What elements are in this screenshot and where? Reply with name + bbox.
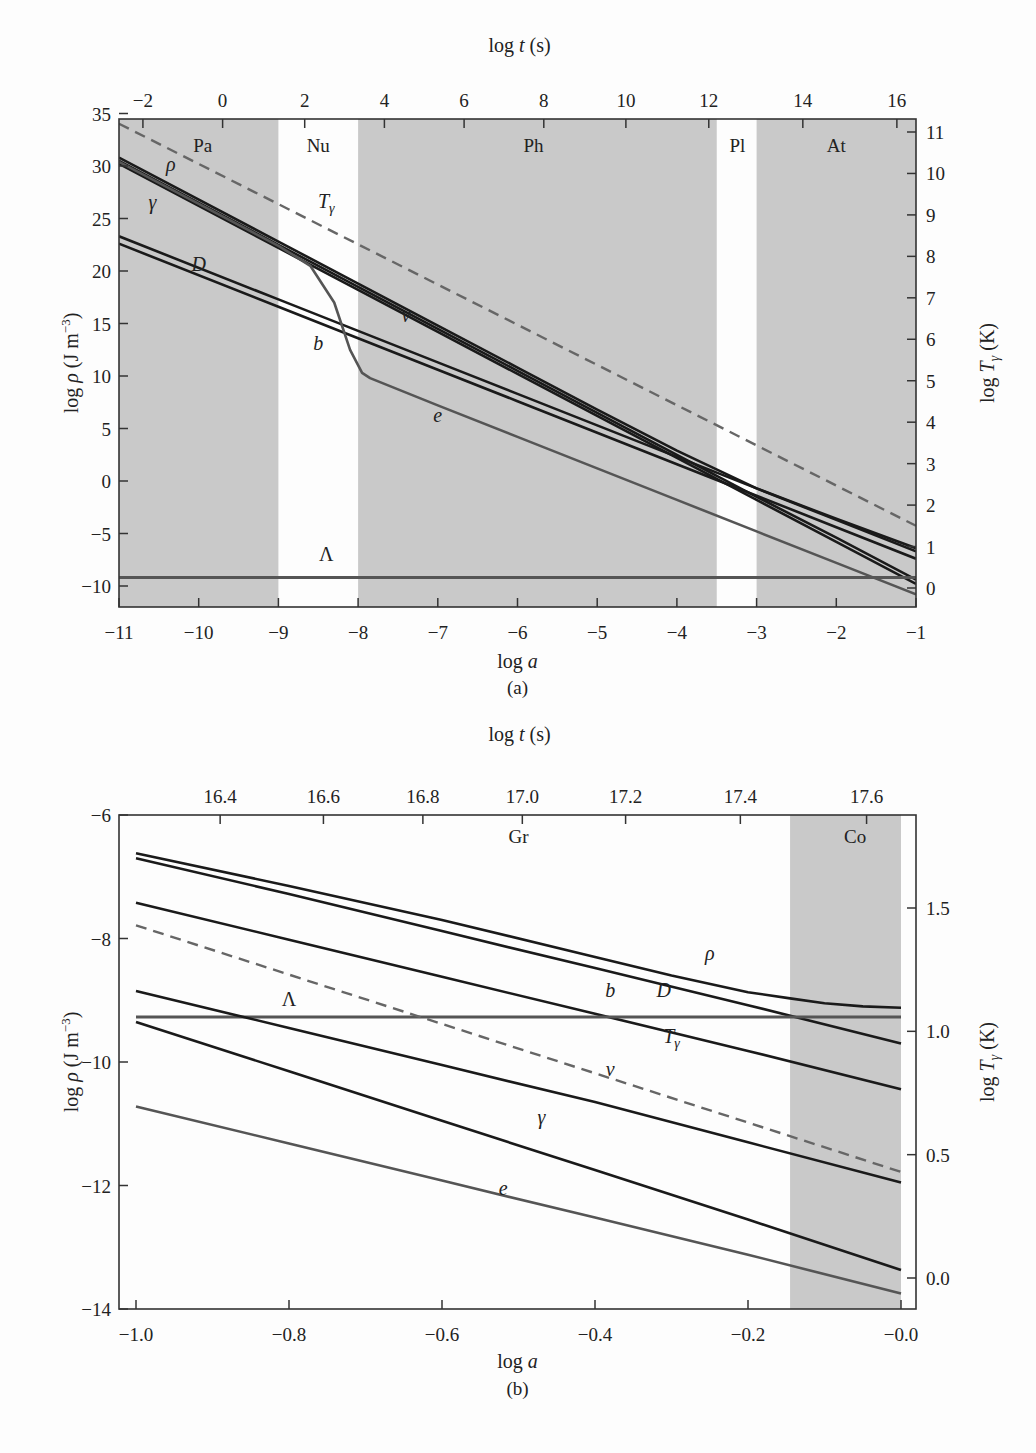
top-tick-label: 16 [887, 90, 906, 111]
era-band-co [790, 815, 901, 1309]
y-tick-label: 0 [102, 471, 112, 492]
x-axis-title: log a [497, 1350, 538, 1373]
era-label: Ph [523, 135, 544, 156]
top-tick-label: 16.8 [406, 786, 439, 807]
y-axis-title: log ρ (J m−3) [58, 313, 83, 414]
curve-b [136, 903, 901, 1089]
era-bands [119, 119, 916, 607]
top-tick-label: 12 [699, 90, 718, 111]
x-tick-label: −6 [507, 622, 527, 643]
top-tick-label: 16.6 [307, 786, 340, 807]
right-axis-title: log Tγ (K) [976, 1022, 1002, 1102]
era-label: Co [844, 826, 866, 847]
right-tick-label: 6 [926, 329, 936, 350]
y-tick-label: 30 [92, 156, 111, 177]
right-tick-label: 7 [926, 288, 936, 309]
right-tick-label: 1.0 [926, 1021, 950, 1042]
right-tick-label: 11 [926, 122, 944, 143]
top-tick-label: 16.4 [204, 786, 238, 807]
right-tick-label: 1.5 [926, 898, 950, 919]
right-axis: 1.51.00.50.0 [907, 898, 950, 1289]
right-tick-label: 2 [926, 495, 936, 516]
era-label: Pl [730, 135, 746, 156]
panel-caption: (b) [506, 1378, 528, 1400]
curve-label: ν [401, 304, 410, 326]
curve-ν [136, 991, 901, 1182]
top-tick-label: 17.4 [724, 786, 758, 807]
y-tick-label: −5 [91, 524, 111, 545]
y-tick-label: −10 [81, 1052, 111, 1073]
top-tick-label: 17.2 [609, 786, 642, 807]
y-tick-label: 20 [92, 261, 111, 282]
top-tick-label: 0 [218, 90, 228, 111]
top-tick-label: −2 [133, 90, 153, 111]
x-tick-label: −0.4 [578, 1324, 613, 1345]
curve-label: D [190, 253, 206, 275]
x-tick-label: −0.6 [425, 1324, 459, 1345]
x-tick-label: −1 [906, 622, 926, 643]
y-tick-label: −8 [91, 929, 111, 950]
top-tick-label: 2 [300, 90, 310, 111]
era-bands [790, 815, 901, 1309]
x-axis-title: log a [497, 650, 538, 673]
curve-label: Tγ [663, 1025, 680, 1051]
era-label: Gr [508, 826, 529, 847]
right-tick-label: 10 [926, 163, 945, 184]
right-tick-label: 5 [926, 371, 936, 392]
y-tick-label: 10 [92, 366, 111, 387]
right-axis-title: log Tγ (K) [976, 323, 1002, 403]
right-tick-label: 3 [926, 454, 936, 475]
top-axis-title: log t (s) [488, 34, 550, 57]
top-axis: 16.416.616.817.017.217.417.6 [204, 786, 884, 824]
figure: −11−10−9−8−7−6−5−4−3−2−1log a(a)−2024681… [0, 0, 1036, 1453]
era-band-at [757, 119, 916, 607]
right-tick-label: 4 [926, 412, 936, 433]
curve-label: Λ [282, 988, 297, 1010]
era-band-ph [358, 119, 717, 607]
x-tick-label: −9 [268, 622, 288, 643]
right-tick-label: 0.0 [926, 1268, 950, 1289]
panel-caption: (a) [507, 677, 528, 699]
y-tick-label: −10 [81, 576, 111, 597]
curve-label: Tγ [318, 190, 335, 216]
right-tick-label: 9 [926, 205, 936, 226]
era-label: Nu [307, 135, 331, 156]
curve-label: Λ [319, 543, 334, 565]
y-tick-label: 5 [102, 419, 112, 440]
top-tick-label: 17.6 [850, 786, 883, 807]
right-tick-label: 8 [926, 246, 936, 267]
y-tick-label: −12 [81, 1176, 111, 1197]
x-tick-label: −2 [826, 622, 846, 643]
y-tick-label: 15 [92, 314, 111, 335]
right-tick-label: 0 [926, 578, 936, 599]
right-tick-label: 0.5 [926, 1145, 950, 1166]
panel-b-chart: −1.0−0.8−0.6−0.4−0.2−0.0log a(b)16.416.6… [58, 723, 1002, 1400]
top-tick-label: 4 [380, 90, 390, 111]
x-tick-label: −10 [184, 622, 214, 643]
panel-a-chart: −11−10−9−8−7−6−5−4−3−2−1log a(a)−2024681… [58, 34, 1002, 699]
era-label: At [827, 135, 847, 156]
curve-label: b [605, 979, 615, 1001]
curve-label: D [656, 979, 672, 1001]
curve-label: e [499, 1177, 508, 1199]
x-tick-label: −3 [746, 622, 766, 643]
curve-γ [136, 1022, 901, 1270]
y-tick-label: 25 [92, 209, 111, 230]
x-tick-label: −0.0 [884, 1324, 918, 1345]
x-tick-label: −0.8 [272, 1324, 306, 1345]
top-tick-label: 17.0 [506, 786, 539, 807]
x-tick-label: −4 [667, 622, 688, 643]
curve-e [136, 1107, 901, 1294]
x-tick-label: −7 [428, 622, 448, 643]
y-tick-label: 35 [92, 104, 111, 125]
x-tick-label: −5 [587, 622, 607, 643]
x-tick-label: −1.0 [119, 1324, 153, 1345]
curve-label: e [433, 404, 442, 426]
curve-label: γ [538, 1106, 547, 1129]
x-tick-label: −0.2 [731, 1324, 765, 1345]
top-tick-label: 8 [539, 90, 549, 111]
right-tick-label: 1 [926, 537, 936, 558]
top-tick-label: 10 [616, 90, 635, 111]
curve-label: ρ [165, 153, 176, 176]
curve-label: b [313, 332, 323, 354]
